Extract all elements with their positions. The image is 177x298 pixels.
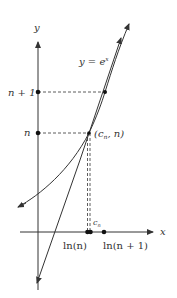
cn-label-sub: n <box>97 222 100 228</box>
curve-label-base: y = e <box>78 56 105 67</box>
y-tick-label-n-plus-1: n + 1 <box>8 87 36 98</box>
curve-label: y = ex <box>78 55 109 67</box>
curve-start-arrow <box>18 203 26 207</box>
point-n-plus-1-axis <box>36 90 41 95</box>
y-tick-label-n: n <box>24 127 30 138</box>
point-curve-n-plus-1 <box>103 90 107 94</box>
diagram-canvas: y x y = ex n + 1 n (cn, n) cn ln(n) ln(n… <box>0 0 177 298</box>
point-cn-n <box>87 131 91 135</box>
point-label-cn-n: (cn, n) <box>94 128 124 140</box>
point-label-tail: , n) <box>107 128 124 139</box>
point-ln-n-plus-1 <box>102 230 107 235</box>
point-cn <box>88 230 93 235</box>
secant-line <box>37 160 80 283</box>
y-axis-label: y <box>33 22 40 33</box>
point-n-axis <box>36 131 41 136</box>
x-axis-label: x <box>160 226 166 237</box>
x-tick-label-ln-n-plus-1: ln(n + 1) <box>103 240 148 251</box>
point-label-open: (c <box>94 128 104 139</box>
curve-label-exponent: x <box>105 55 109 62</box>
cn-label: cn <box>93 218 101 228</box>
x-tick-label-ln-n: ln(n) <box>63 240 87 251</box>
